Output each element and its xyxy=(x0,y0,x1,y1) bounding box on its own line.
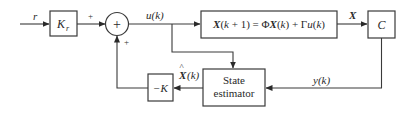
sum-sign-bottom: + xyxy=(124,37,129,47)
plant-state-equation-block: X(k + 1) = ΦX(k) + Γu(k) xyxy=(201,11,337,38)
state-signal-label: X xyxy=(348,9,357,21)
kr-to-sum-line: + xyxy=(77,11,105,24)
state-estimator-block: State estimator xyxy=(203,69,265,106)
control-signal-line: u(k) xyxy=(129,9,201,24)
state-signal-line: X xyxy=(337,9,367,24)
feedback-gain-label: −K xyxy=(153,82,168,94)
reference-input-line: r xyxy=(20,10,49,24)
output-matrix-block: C xyxy=(368,11,395,38)
reference-label: r xyxy=(33,10,38,22)
plant-equation: X(k + 1) = ΦX(k) + Γu(k) xyxy=(212,18,325,31)
output-signal-label: y(k) xyxy=(312,74,330,87)
estimator-label-line2: estimator xyxy=(214,87,255,99)
control-signal-label: u(k) xyxy=(146,9,164,22)
output-matrix-label: C xyxy=(377,18,386,32)
estimator-label-line1: State xyxy=(223,74,245,86)
gain-kr-block: K r xyxy=(50,11,77,36)
sum-plus-symbol: + xyxy=(113,17,121,32)
estimate-arg: (k) xyxy=(187,69,200,82)
control-block-diagram: r K r + + + u(k) X(k + 1) = ΦX(k) + Γu(k… xyxy=(0,0,411,113)
gain-kr-main: K xyxy=(56,17,66,31)
feedback-line xyxy=(117,36,148,88)
output-signal-line: y(k) xyxy=(266,38,382,88)
estimate-signal-line: X ^ (k) xyxy=(174,62,203,88)
sum-sign-top: + xyxy=(88,11,93,21)
feedback-gain-block: −K xyxy=(148,74,173,101)
